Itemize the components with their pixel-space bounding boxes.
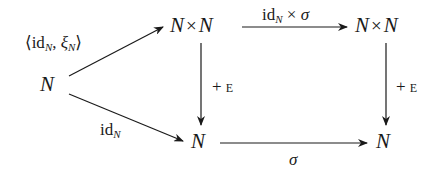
node-left-symbol: N [40, 72, 54, 96]
label-id-n-diagonal: idN [100, 121, 121, 140]
label-sigma-bottom: σ [289, 151, 297, 168]
node-top-right-a: N [355, 13, 369, 37]
label-top-op: × [287, 5, 297, 24]
node-top-right: N×N [355, 15, 398, 36]
label-pairing-id: id [32, 33, 45, 52]
node-bottom-right-symbol: N [376, 129, 390, 153]
node-top-middle-op: × [184, 15, 199, 36]
label-e: E [410, 81, 418, 95]
label-plus: + [396, 77, 406, 96]
label-top-id: id [262, 5, 275, 24]
node-top-middle: N×N [170, 15, 213, 36]
label-top-sigma: σ [301, 5, 309, 24]
label-pairing-close: ⟩ [75, 33, 82, 52]
label-pairing-comma: , [52, 33, 56, 52]
node-top-middle-a: N [170, 13, 184, 37]
label-plus: + [212, 77, 222, 96]
node-top-right-op: × [369, 15, 384, 36]
label-id-times-sigma: idN × σ [262, 6, 309, 25]
label-plus-e-middle: + E [212, 78, 234, 95]
label-pairing: ⟨idN, ξN⟩ [25, 34, 82, 53]
arrow-left-to-top-middle [69, 27, 163, 76]
label-top-id-sub: N [275, 13, 282, 25]
label-pairing-open: ⟨ [25, 33, 32, 52]
label-e: E [226, 81, 234, 95]
node-top-middle-b: N [199, 13, 213, 37]
label-pairing-xi: ξ [61, 33, 68, 52]
node-bottom-right: N [376, 131, 390, 152]
node-top-right-b: N [384, 13, 398, 37]
node-bottom-middle-symbol: N [191, 129, 205, 153]
node-left: N [40, 74, 54, 95]
label-plus-e-right: + E [396, 78, 418, 95]
label-bottom-sigma: σ [289, 150, 297, 169]
node-bottom-middle: N [191, 131, 205, 152]
label-id-sub: N [113, 128, 120, 140]
arrow-left-to-bottom-middle [69, 94, 183, 141]
label-id: id [100, 120, 113, 139]
